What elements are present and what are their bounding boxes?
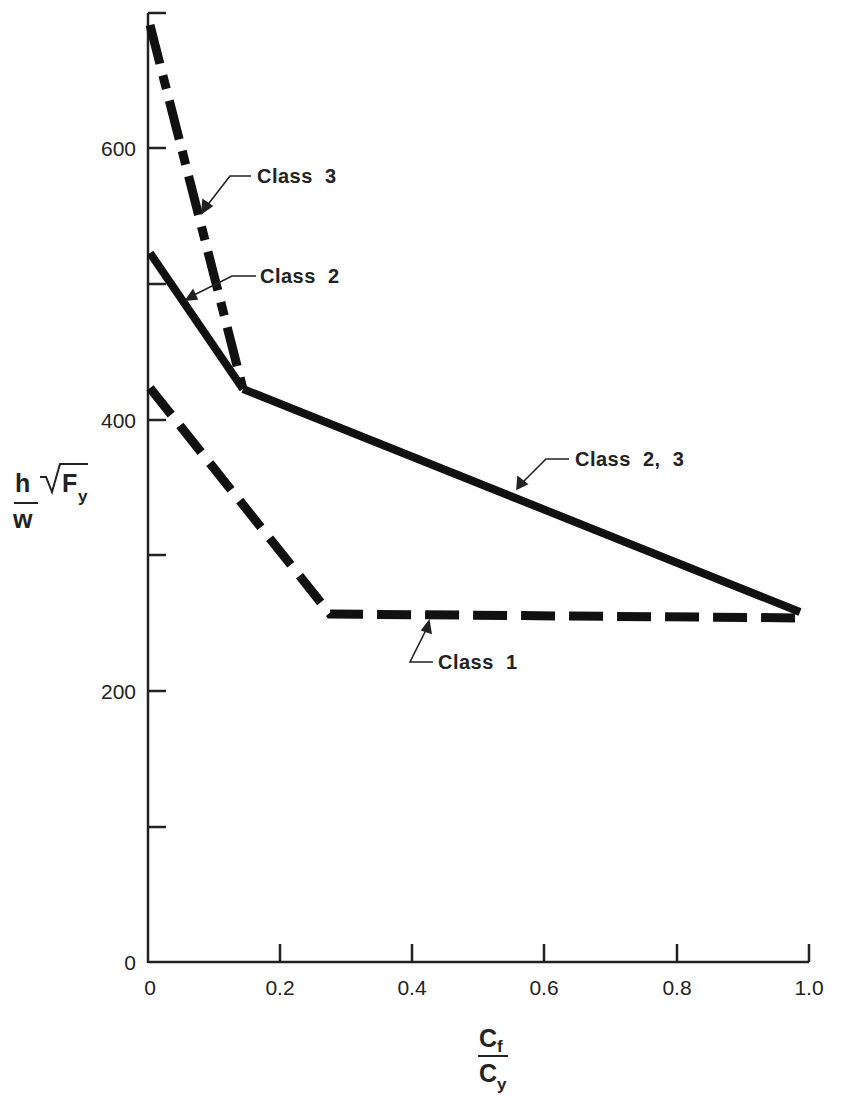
x-tick-0.2: 0.2 <box>265 976 294 999</box>
y-tick-0: 0 <box>124 951 136 974</box>
x-axis <box>148 944 809 962</box>
y-tick-200: 200 <box>101 680 136 703</box>
y-label-numerator: h <box>15 469 30 497</box>
y-label-F: F <box>62 469 77 497</box>
y-axis <box>148 13 166 963</box>
x-tick-0: 0 <box>144 976 156 999</box>
label-class-3: Class 3 <box>257 165 337 187</box>
x-label-num-sub: f <box>497 1037 503 1056</box>
chart-canvas: 600 400 200 0 0 0.2 0.4 0.6 0.8 1.0 h w … <box>0 0 845 1100</box>
x-tick-0.4: 0.4 <box>397 976 427 999</box>
annotation-arrows <box>186 176 569 662</box>
x-axis-label: C f C y <box>478 1024 508 1094</box>
label-class-2-3: Class 2, 3 <box>575 448 684 470</box>
y-tick-600: 600 <box>101 137 136 160</box>
x-tick-0.8: 0.8 <box>662 976 691 999</box>
series-class-2 <box>150 253 243 389</box>
x-label-num: C <box>479 1024 497 1052</box>
y-label-denominator: w <box>12 505 33 533</box>
series-class-2-3 <box>243 389 800 612</box>
arrow-head-icon <box>422 621 431 633</box>
y-tick-400: 400 <box>101 409 136 432</box>
series-class-1 <box>150 388 808 618</box>
x-label-den: C <box>479 1059 497 1087</box>
label-class-2: Class 2 <box>260 265 340 287</box>
series-class-3 <box>150 25 243 389</box>
x-tick-0.6: 0.6 <box>529 976 558 999</box>
arrow-head-icon <box>186 290 197 300</box>
x-tick-1.0: 1.0 <box>794 976 823 999</box>
y-axis-label: h w F y <box>12 464 88 533</box>
y-label-sub: y <box>78 487 88 506</box>
x-label-den-sub: y <box>497 1075 507 1094</box>
label-class-1: Class 1 <box>438 651 518 673</box>
